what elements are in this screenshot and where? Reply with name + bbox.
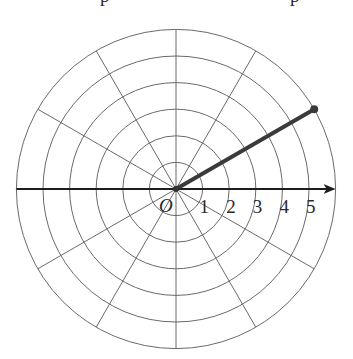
cropped-letter: p — [290, 0, 300, 6]
cropped-letter: p — [100, 0, 110, 6]
spoke-150deg — [38, 109, 176, 189]
pole-dot — [173, 186, 179, 192]
spoke-120deg — [96, 51, 176, 189]
axis-label-5: 5 — [306, 196, 316, 217]
axis-label-3: 3 — [253, 196, 262, 217]
polar-point-dot — [310, 105, 318, 113]
spoke-300deg — [176, 189, 256, 327]
polar-ray — [176, 109, 314, 189]
cropped-text-fragments: pp — [100, 0, 300, 6]
axis-label-4: 4 — [279, 196, 289, 217]
axis-label-2: 2 — [226, 196, 236, 217]
polar-grid-diagram: pp O 12345 — [0, 0, 353, 359]
spoke-210deg — [38, 189, 176, 269]
origin-label: O — [159, 195, 173, 216]
spoke-330deg — [176, 189, 314, 269]
axis-tick-labels: 12345 — [200, 196, 316, 217]
axis-label-1: 1 — [200, 196, 210, 217]
